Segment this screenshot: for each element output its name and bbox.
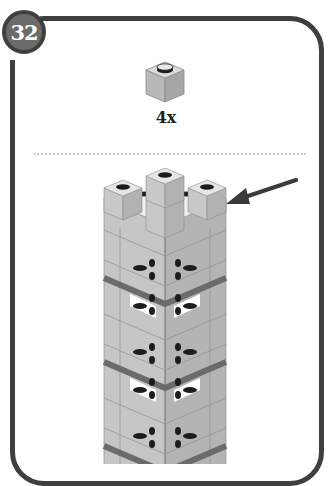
brick-1x1-icon xyxy=(144,60,186,104)
part-quantity: 4x xyxy=(146,108,186,127)
step-number-badge: 32 xyxy=(2,10,46,54)
section-divider xyxy=(34,153,306,155)
tower-assembly-illustration xyxy=(100,168,230,464)
callout-arrow-icon xyxy=(224,176,298,206)
step-number: 32 xyxy=(10,20,37,45)
